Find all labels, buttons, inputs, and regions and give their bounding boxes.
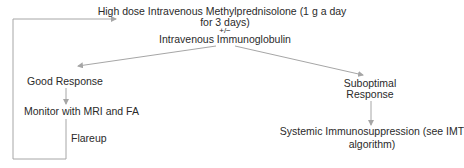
arrow-to-good-response	[78, 46, 216, 66]
flareup-label: Flareup	[71, 133, 107, 144]
arrow-to-suboptimal-response	[235, 46, 363, 75]
systemic-line-1: Systemic Immunosuppression (see IMT	[280, 126, 464, 137]
systemic-line-2: algorithm)	[349, 139, 396, 150]
monitor-node: Monitor with MRI and FA	[24, 106, 139, 117]
good-response-node: Good Response	[27, 76, 103, 87]
treatment-line-3: Intravenous Immunoglobulin	[159, 34, 291, 45]
suboptimal-line-2: Response	[346, 89, 393, 100]
